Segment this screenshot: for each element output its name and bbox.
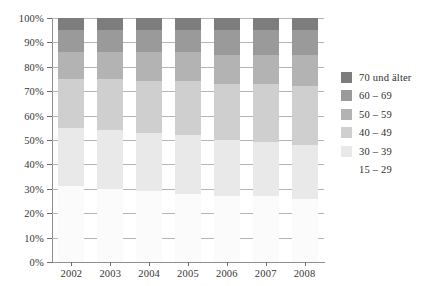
bar-segment (58, 30, 84, 52)
bar-2005 (175, 18, 201, 262)
bar-segment (58, 79, 84, 128)
legend-swatch-icon (341, 72, 352, 83)
bar-segment (292, 199, 318, 262)
bar-segment (58, 186, 84, 262)
y-axis-label: 90% (24, 37, 44, 48)
bar-2004 (136, 18, 162, 262)
y-axis-label: 60% (24, 110, 44, 121)
legend-item: 15 – 29 (341, 161, 412, 180)
bar-segment (58, 128, 84, 187)
bar-segment (253, 18, 279, 30)
x-axis-label-2006: 2006 (216, 268, 238, 279)
x-axis-label-2008: 2008 (294, 268, 316, 279)
y-axis-label: 30% (24, 183, 44, 194)
bar-segment (58, 52, 84, 79)
bar-segment (214, 18, 240, 30)
bar-segment (292, 30, 318, 54)
y-axis-tick (47, 67, 52, 68)
legend-label: 15 – 29 (359, 164, 392, 175)
bar-segment (136, 18, 162, 30)
bar-2007 (253, 18, 279, 262)
legend-label: 70 und älter (359, 72, 412, 83)
y-axis-tick (47, 262, 52, 263)
bar-segment (253, 30, 279, 54)
x-axis-label-2003: 2003 (99, 268, 121, 279)
x-axis-tick (188, 262, 189, 266)
x-axis-label-2004: 2004 (138, 268, 160, 279)
bar-segment (214, 55, 240, 84)
bar-segment (175, 52, 201, 81)
bar-segment (253, 142, 279, 196)
x-axis-tick (71, 262, 72, 266)
bar-segment (136, 191, 162, 262)
legend-label: 50 – 59 (359, 109, 392, 120)
bar-segment (97, 189, 123, 262)
y-axis-label: 40% (24, 159, 44, 170)
y-axis-label: 80% (24, 61, 44, 72)
legend-label: 60 – 69 (359, 90, 392, 101)
legend-label: 40 – 49 (359, 127, 392, 138)
x-axis-tick (227, 262, 228, 266)
bar-2003 (97, 18, 123, 262)
legend-swatch-icon (341, 146, 352, 157)
bar-segment (97, 52, 123, 79)
y-axis-tick (47, 18, 52, 19)
plot-area: 0%10%20%30%40%50%60%70%80%90%100% (52, 18, 324, 262)
bar-segment (253, 196, 279, 262)
bar-segment (136, 81, 162, 132)
bar-segment (175, 30, 201, 52)
legend-item: 70 und älter (341, 68, 412, 87)
legend-item: 30 – 39 (341, 142, 412, 161)
y-axis-tick (47, 116, 52, 117)
legend-item: 60 – 69 (341, 87, 412, 106)
bar-segment (136, 52, 162, 81)
bar-segment (214, 84, 240, 140)
y-axis-label: 10% (24, 232, 44, 243)
chart-legend: 70 und älter60 – 6950 – 5940 – 4930 – 39… (341, 68, 412, 179)
bar-segment (214, 196, 240, 262)
y-axis-label: 100% (19, 13, 44, 24)
bar-segment (214, 140, 240, 196)
bar-segment (292, 145, 318, 199)
bar-segment (253, 55, 279, 84)
legend-swatch-icon (341, 109, 352, 120)
bar-2002 (58, 18, 84, 262)
x-axis-label-2005: 2005 (177, 268, 199, 279)
legend-label: 30 – 39 (359, 146, 392, 157)
bar-segment (58, 18, 84, 30)
y-axis-label: 0% (30, 257, 44, 268)
bar-segment (97, 30, 123, 52)
y-axis-tick (47, 238, 52, 239)
legend-swatch-icon (341, 164, 352, 175)
x-axis-label-2002: 2002 (61, 268, 83, 279)
bar-segment (136, 30, 162, 52)
y-axis-tick (47, 164, 52, 165)
bar-segment (253, 84, 279, 143)
y-axis-tick (47, 42, 52, 43)
bar-segment (175, 135, 201, 194)
bar-segment (175, 18, 201, 30)
bar-2006 (214, 18, 240, 262)
y-axis-label: 50% (24, 135, 44, 146)
x-axis-label-2007: 2007 (255, 268, 277, 279)
legend-item: 50 – 59 (341, 105, 412, 124)
bar-2008 (292, 18, 318, 262)
bar-segment (175, 194, 201, 262)
x-axis-tick (266, 262, 267, 266)
y-axis-tick (47, 91, 52, 92)
bar-segment (292, 55, 318, 87)
bar-segment (214, 30, 240, 54)
x-axis-tick (110, 262, 111, 266)
x-axis-tick (149, 262, 150, 266)
bar-segment (97, 18, 123, 30)
y-axis-label: 20% (24, 208, 44, 219)
bar-segment (97, 130, 123, 189)
x-axis-tick (305, 262, 306, 266)
legend-swatch-icon (341, 127, 352, 138)
y-axis-tick (47, 213, 52, 214)
bar-segment (292, 86, 318, 145)
bar-segment (175, 81, 201, 135)
legend-item: 40 – 49 (341, 124, 412, 143)
bar-segment (136, 133, 162, 192)
y-axis-label: 70% (24, 86, 44, 97)
